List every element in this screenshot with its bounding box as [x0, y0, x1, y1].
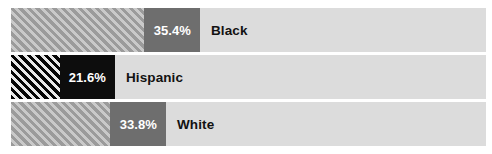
- bar-value-segment: 33.8%: [110, 102, 166, 146]
- bar-track: Black: [200, 8, 486, 52]
- bar-category-label: Black: [200, 23, 248, 38]
- bar-value-segment: 35.4%: [144, 8, 200, 52]
- bar-row: 33.8% White: [11, 102, 486, 146]
- horizontal-bar-chart: 35.4% Black 21.6% Hispanic 33.8% White: [0, 0, 492, 154]
- bar-hatch-segment: [11, 8, 144, 52]
- bar-value-label: 21.6%: [69, 70, 106, 85]
- bar-track: Hispanic: [115, 55, 486, 99]
- bar-hatch-segment: [11, 102, 110, 146]
- bar-value-segment: 21.6%: [60, 55, 115, 99]
- bar-row: 35.4% Black: [11, 8, 486, 52]
- bar-value-label: 33.8%: [120, 117, 157, 132]
- bar-category-label: Hispanic: [115, 70, 183, 85]
- bar-category-label: White: [166, 117, 214, 132]
- bar-track: White: [166, 102, 486, 146]
- bar-value-label: 35.4%: [154, 23, 191, 38]
- bar-row: 21.6% Hispanic: [11, 55, 486, 99]
- bar-hatch-segment: [11, 55, 60, 99]
